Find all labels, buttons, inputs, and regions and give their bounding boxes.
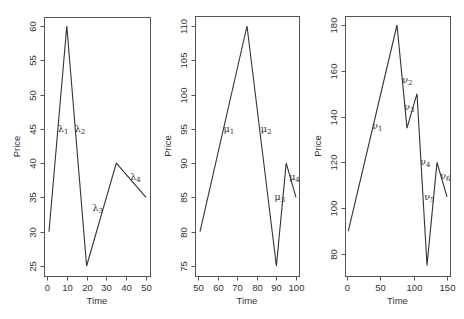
panel-lambda: 010203040502530354045505560TimePriceλ1λ2… [11, 18, 152, 307]
x-axis-label: Time [87, 295, 108, 306]
y-tick-label: 100 [328, 201, 339, 217]
x-tick-label: 50 [193, 282, 204, 293]
segment-annotation: λ3 [93, 202, 104, 215]
y-tick-label: 100 [178, 88, 189, 104]
plot-frame [45, 18, 151, 277]
y-axis-label: Price [162, 135, 173, 157]
y-tick-label: 180 [328, 18, 339, 34]
y-tick-label: 60 [27, 21, 38, 32]
x-tick-label: 150 [440, 282, 456, 293]
segment-annotation: λ2 [75, 123, 86, 136]
y-tick-label: 95 [178, 124, 189, 135]
segment-annotation: ν1 [372, 120, 382, 133]
x-tick-label: 0 [45, 282, 50, 293]
y-axis-label: Price [312, 135, 323, 157]
segment-annotation: μ1 [223, 123, 234, 136]
x-tick-label: 100 [407, 282, 423, 293]
y-tick-label: 35 [27, 192, 38, 203]
x-tick-label: 100 [289, 282, 305, 293]
panel-mu: 50607080901007580859095100105110TimePric… [162, 17, 304, 307]
y-tick-label: 160 [328, 64, 339, 80]
x-tick-label: 10 [62, 282, 73, 293]
plot-frame [346, 17, 451, 277]
segment-annotation: ν5 [424, 191, 434, 204]
y-tick-label: 80 [328, 249, 339, 260]
y-tick-label: 40 [27, 158, 38, 169]
y-tick-label: 110 [178, 19, 189, 34]
segment-annotation: μ4 [289, 171, 300, 184]
y-tick-label: 80 [178, 227, 189, 238]
segment-annotation: λ1 [58, 123, 69, 136]
segment-annotation: ν2 [402, 74, 412, 87]
y-tick-label: 50 [27, 90, 38, 101]
x-tick-label: 0 [345, 282, 350, 293]
y-tick-label: 30 [27, 227, 38, 238]
price-line [49, 26, 146, 266]
y-tick-label: 25 [27, 261, 38, 272]
y-tick-label: 105 [178, 53, 189, 69]
plot-frame [196, 17, 300, 277]
x-axis-label: Time [237, 295, 258, 306]
x-tick-label: 50 [141, 282, 152, 293]
segment-annotation: λ4 [130, 171, 141, 184]
y-axis-label: Price [11, 136, 22, 158]
y-tick-label: 85 [178, 192, 189, 203]
segment-annotation: ν4 [420, 156, 431, 169]
price-line [348, 25, 447, 265]
y-tick-label: 90 [178, 158, 189, 169]
x-tick-label: 80 [252, 282, 263, 293]
price-line [200, 26, 296, 266]
x-tick-label: 20 [82, 282, 93, 293]
y-tick-label: 55 [27, 55, 38, 66]
segment-annotation: μ2 [261, 123, 272, 136]
x-tick-label: 50 [375, 282, 386, 293]
y-tick-label: 75 [178, 261, 189, 272]
y-tick-label: 140 [328, 110, 339, 126]
x-axis-label: Time [387, 295, 408, 306]
x-tick-label: 90 [271, 282, 282, 293]
x-tick-label: 70 [232, 282, 243, 293]
x-tick-label: 40 [121, 282, 132, 293]
x-tick-label: 30 [101, 282, 112, 293]
x-tick-label: 60 [213, 282, 224, 293]
three-panel-price-chart: 010203040502530354045505560TimePriceλ1λ2… [0, 0, 464, 319]
y-tick-label: 120 [328, 155, 339, 171]
panel-nu: 05010015080100120140160180TimePriceν1ν2ν… [312, 17, 455, 307]
y-tick-label: 45 [27, 124, 38, 135]
